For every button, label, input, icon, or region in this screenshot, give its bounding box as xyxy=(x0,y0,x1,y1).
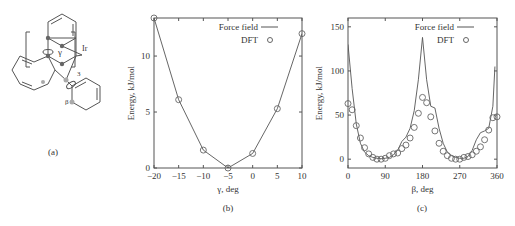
beta-label: β xyxy=(65,98,69,106)
y-tick-label: 10 xyxy=(141,51,151,61)
dft-marker xyxy=(420,94,426,100)
caption-b: (b) xyxy=(223,203,234,213)
legend-circle-icon xyxy=(464,38,469,43)
right-phenyl-ring xyxy=(72,78,100,110)
y-axis-label: Energy, kJ/mol xyxy=(126,65,136,120)
x-tick-label: 90 xyxy=(381,171,391,181)
left-benzo-ring xyxy=(12,56,55,90)
legend-circle-icon xyxy=(268,38,273,43)
caption-a: (a) xyxy=(48,147,58,157)
dft-marker xyxy=(407,135,413,141)
top-phenyl-ring xyxy=(48,14,76,46)
x-tick-label: 270 xyxy=(453,171,467,181)
legend-force-field-label: Force field xyxy=(415,22,455,32)
panel-a-molecule xyxy=(12,14,100,110)
caption-c: (c) xyxy=(417,203,427,213)
y-tick-label: 150 xyxy=(331,22,345,32)
dft-marker xyxy=(411,124,417,130)
plot-c: 090180270360050100150β, degEnergy, kJ/mo… xyxy=(314,18,504,194)
dft-marker xyxy=(436,140,442,146)
dft-marker xyxy=(357,135,363,141)
legend-dft-label: DFT xyxy=(437,35,455,45)
x-tick-label: 5 xyxy=(275,171,280,181)
x-tick-label: 180 xyxy=(416,171,430,181)
legend-dft-label: DFT xyxy=(241,35,259,45)
dft-marker xyxy=(482,137,488,143)
y-axis-label: Energy, kJ/mol xyxy=(314,65,324,120)
atom-highlights-light xyxy=(41,78,75,105)
x-tick-label: −10 xyxy=(196,171,211,181)
force-field-line xyxy=(154,18,302,168)
dft-marker xyxy=(403,142,409,148)
right-bracket xyxy=(71,32,75,67)
dft-marker xyxy=(428,114,434,120)
dft-marker xyxy=(477,144,483,150)
legend-force-field-label: Force field xyxy=(219,22,259,32)
gamma-label: γ xyxy=(57,47,62,57)
y-tick-label: 5 xyxy=(146,107,151,117)
x-axis-label: γ, deg xyxy=(216,184,239,194)
x-tick-label: 360 xyxy=(490,171,504,181)
y-tick-label: 0 xyxy=(340,154,345,164)
x-tick-label: −15 xyxy=(172,171,187,181)
y-tick-label: 50 xyxy=(335,110,345,120)
force-field-line xyxy=(348,37,495,158)
dft-marker xyxy=(415,110,421,116)
y-tick-label: 0 xyxy=(146,163,151,173)
x-tick-label: 0 xyxy=(346,171,351,181)
plot-b: −20−15−10−505100510γ, degEnergy, kJ/molF… xyxy=(126,15,307,194)
dft-marker xyxy=(399,146,405,152)
x-tick-label: 10 xyxy=(298,171,308,181)
dft-marker xyxy=(424,100,430,106)
count-subscript: 3 xyxy=(77,70,81,78)
x-tick-label: 0 xyxy=(250,171,255,181)
dft-marker xyxy=(432,128,438,134)
x-axis-label: β, deg xyxy=(411,184,434,194)
x-tick-label: −5 xyxy=(223,171,233,181)
metal-label: Ir xyxy=(82,44,88,53)
y-tick-label: 100 xyxy=(331,66,345,76)
figure: γ Ir 3 β (a) −20−15−10−505100510γ, degEn… xyxy=(0,0,515,226)
